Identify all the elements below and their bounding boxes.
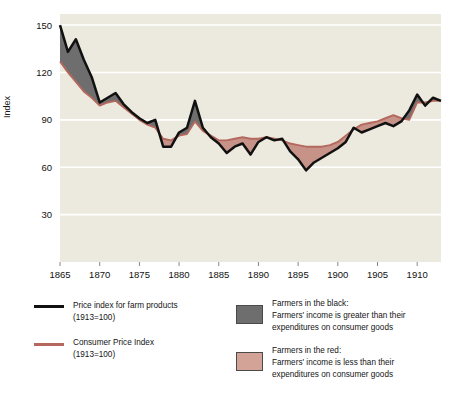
x-tick-label: 1880 [168,269,189,280]
legend-title: Farmers in the red: [272,345,394,357]
y-tick-label: 120 [36,67,52,78]
legend-item-farm-products: Price index for farm products (1913=100) [34,300,239,324]
gray-fill-swatch-icon [236,305,263,324]
x-tick-label: 1905 [367,269,388,280]
chart-area: 1501209060301865187018751880188518901895… [0,0,469,290]
legend-line-1: Farmers' income is less than their [272,358,394,367]
legend-item-label: Farmers in the red: Farmers' income is l… [272,345,394,382]
x-tick-label: 1900 [327,269,348,280]
y-tick-label: 30 [41,209,52,220]
y-tick-label: 150 [36,20,52,31]
legend-line-1: Price index for farm products [73,301,178,310]
figure: 1501209060301865187018751880188518901895… [0,0,469,396]
legend-line-1: Consumer Price Index [73,338,154,347]
x-tick-label: 1910 [407,269,428,280]
y-tick-label: 60 [41,162,52,173]
chart-legend: Price index for farm products (1913=100)… [0,296,469,392]
legend-line-1: Farmers' income is greater than their [272,311,406,320]
legend-item-farmers-in-the-black: Farmers in the black: Farmers' income is… [236,298,464,335]
x-tick-label: 1885 [208,269,229,280]
x-tick-label: 1865 [49,269,70,280]
price-index-line-chart: 1501209060301865187018751880188518901895… [0,0,469,290]
red-line-swatch-icon [34,343,64,346]
legend-item-label: Farmers in the black: Farmers' income is… [272,298,406,335]
x-tick-label: 1875 [129,269,150,280]
legend-item-label: Price index for farm products (1913=100) [73,300,178,324]
black-line-swatch-icon [34,305,64,308]
legend-line-2: (1913=100) [73,350,115,359]
legend-item-farmers-in-the-red: Farmers in the red: Farmers' income is l… [236,345,464,382]
legend-fill-group: Farmers in the black: Farmers' income is… [236,298,464,391]
legend-title: Farmers in the black: [272,298,406,310]
x-tick-label: 1890 [248,269,269,280]
legend-item-consumer-price-index: Consumer Price Index (1913=100) [34,337,239,361]
y-axis-label: Index [2,96,12,118]
pink-fill-swatch-icon [236,352,263,371]
legend-item-label: Consumer Price Index (1913=100) [73,337,154,361]
legend-line-2: expenditures on consumer goods [272,370,393,379]
legend-line-2: expenditures on consumer goods [272,323,393,332]
legend-series-group: Price index for farm products (1913=100)… [34,300,239,374]
x-tick-label: 1870 [89,269,110,280]
x-tick-label: 1895 [288,269,309,280]
legend-line-2: (1913=100) [73,313,115,322]
y-tick-label: 90 [41,114,52,125]
